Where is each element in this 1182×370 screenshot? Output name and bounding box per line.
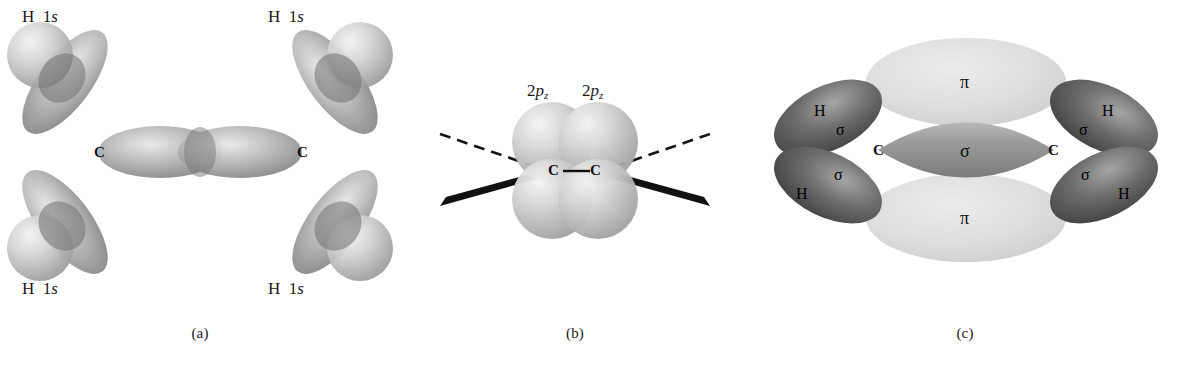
panel-b-2pz-orbitals: C C 2pz 2pz (b) bbox=[400, 0, 750, 370]
panel-b-caption: (b) bbox=[400, 325, 750, 342]
carbon-atom-label-right: C bbox=[297, 145, 308, 160]
orbital-label-2pz-right: 2pz bbox=[582, 82, 603, 101]
panel-c-caption: (c) bbox=[780, 325, 1150, 342]
carbon-atom-label-right: C bbox=[1048, 143, 1059, 158]
carbon-atom-label-left: C bbox=[548, 163, 559, 178]
sigma-label-bottom-right: σ bbox=[1081, 167, 1090, 183]
orbital-label-h1s-top-right: H 1s bbox=[268, 8, 304, 25]
orbital-diagram-figure: C C H 1s H 1s H 1s H 1s (a) bbox=[0, 0, 1182, 370]
hydrogen-label-top-left: H bbox=[814, 103, 826, 119]
orbital-label-h1s-bottom-left: H 1s bbox=[22, 280, 58, 297]
orbital-label-h1s-top-left: H 1s bbox=[22, 8, 58, 25]
panel-b-orbital-graphic bbox=[400, 0, 750, 320]
hydrogen-label-bottom-right: H bbox=[1118, 186, 1130, 202]
pi-label-bottom: π bbox=[960, 209, 969, 227]
hydrogen-label-top-right: H bbox=[1102, 103, 1114, 119]
carbon-atom-label-right: C bbox=[590, 163, 601, 178]
pi-label-top: π bbox=[960, 73, 969, 91]
panel-a-sp2-hybrid-overlap: C C H 1s H 1s H 1s H 1s (a) bbox=[0, 0, 400, 370]
hydrogen-label-bottom-left: H bbox=[796, 186, 808, 202]
carbon-atom-label-left: C bbox=[94, 145, 105, 160]
panel-a-caption: (a) bbox=[0, 325, 400, 342]
sigma-label-bottom-left: σ bbox=[834, 167, 843, 183]
sigma-label-center: σ bbox=[960, 142, 970, 160]
panel-c-sigma-pi-framework: C C π π σ H σ σ H σ H σ H (c) bbox=[750, 0, 1182, 370]
carbon-atom-label-left: C bbox=[873, 143, 884, 158]
orbital-label-h1s-bottom-right: H 1s bbox=[268, 280, 304, 297]
sigma-label-top-right: σ bbox=[1079, 122, 1088, 138]
orbital-label-2pz-left: 2pz bbox=[527, 82, 548, 101]
panel-a-orbital-graphic bbox=[0, 0, 400, 320]
orbital-overlap-regions bbox=[29, 44, 371, 260]
sigma-label-top-left: σ bbox=[836, 122, 845, 138]
